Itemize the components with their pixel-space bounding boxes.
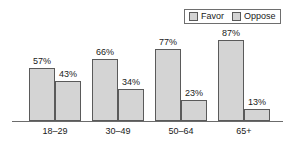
x-axis-label-18-29: 18–29 [21, 127, 89, 136]
legend-item-favor[interactable]: Favor [189, 12, 224, 21]
bar-value-label-oppose-30-49: 34% [114, 78, 148, 87]
legend-label-oppose: Oppose [244, 12, 276, 21]
legend-item-oppose[interactable]: Oppose [232, 12, 276, 21]
bar-value-label-oppose-65+: 13% [240, 98, 274, 107]
x-axis-label-65+: 65+ [210, 127, 278, 136]
legend-swatch-favor-icon [189, 12, 198, 21]
x-axis-line [12, 121, 283, 122]
x-axis-label-30-49: 30–49 [84, 127, 152, 136]
bar-oppose-50-64 [181, 100, 207, 121]
legend: Favor Oppose [184, 9, 281, 24]
bar-value-label-favor-65+: 87% [214, 29, 248, 38]
bar-favor-65+ [218, 40, 244, 121]
bar-value-label-favor-50-64: 77% [151, 38, 185, 47]
bar-oppose-65+ [244, 109, 270, 121]
bar-value-label-oppose-18-29: 43% [51, 70, 85, 79]
bar-oppose-30-49 [118, 89, 144, 121]
bar-chart: 57%43%66%34%77%23%87%13% 18–2930–4950–64… [0, 0, 290, 146]
bar-favor-50-64 [155, 49, 181, 121]
bar-favor-30-49 [92, 59, 118, 121]
legend-label-favor: Favor [201, 12, 224, 21]
legend-swatch-oppose-icon [232, 12, 241, 21]
bar-value-label-favor-30-49: 66% [88, 48, 122, 57]
bar-value-label-favor-18-29: 57% [25, 57, 59, 66]
bar-value-label-oppose-50-64: 23% [177, 89, 211, 98]
x-axis-label-50-64: 50–64 [147, 127, 215, 136]
bar-oppose-18-29 [55, 81, 81, 121]
